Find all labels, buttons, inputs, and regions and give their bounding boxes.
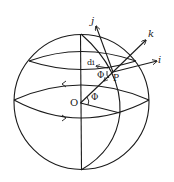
vector-j [96,26,113,72]
label-phi-p: Φ [97,70,104,80]
label-di: di [87,58,95,67]
equator-radius [81,103,121,113]
latitude-back [29,52,136,62]
vector-di [96,66,108,68]
label-k: k [148,28,154,39]
label-i: i [158,54,161,65]
angle-arc-o [87,97,89,105]
label-o: O [70,97,78,108]
label-phi-o: Φ [91,92,98,102]
vector-i [113,61,157,72]
sphere-diagram: j k i di Φ P O Φ [0,0,174,182]
label-j: j [89,15,94,26]
label-p: P [113,73,119,83]
equator-arrow-front [62,115,66,121]
